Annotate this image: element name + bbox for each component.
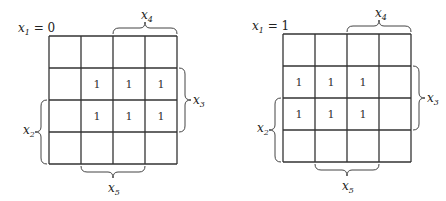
kmap-cell-value: 1 xyxy=(296,108,303,121)
brace-top xyxy=(347,20,411,32)
karnaugh-maps-diagram: x1 = 0111111x4x3x2x5x1 = 1111111x4x3x2x5 xyxy=(0,0,446,201)
label-top: x4 xyxy=(375,6,387,22)
kmap-title: x1 = 1 xyxy=(252,19,289,35)
brace-bottom xyxy=(81,166,145,178)
brace-top xyxy=(113,22,177,34)
kmap-cell-value: 1 xyxy=(328,76,335,89)
brace-left xyxy=(269,98,281,162)
kmap-cell-value: 1 xyxy=(158,110,165,123)
kmap-cell-value: 1 xyxy=(126,110,133,123)
kmap-cell-value: 1 xyxy=(328,108,335,121)
brace-bottom xyxy=(315,164,379,176)
kmap-cell-value: 1 xyxy=(94,110,101,123)
label-top: x4 xyxy=(141,8,153,24)
kmap-cell-value: 1 xyxy=(158,78,165,91)
label-right: x3 xyxy=(193,93,205,109)
kmap-1 xyxy=(283,34,411,162)
kmap-cell-value: 1 xyxy=(126,78,133,91)
label-bottom: x5 xyxy=(108,181,120,197)
kmap-0 xyxy=(49,36,177,164)
label-left: x2 xyxy=(23,123,35,139)
brace-right xyxy=(413,66,425,130)
label-left: x2 xyxy=(257,121,269,137)
kmap-cell-value: 1 xyxy=(360,108,367,121)
kmap-title: x1 = 0 xyxy=(18,21,55,37)
brace-right xyxy=(179,68,191,132)
label-bottom: x5 xyxy=(342,179,354,195)
kmap-cell-value: 1 xyxy=(296,76,303,89)
kmap-cell-value: 1 xyxy=(94,78,101,91)
label-right: x3 xyxy=(427,91,439,107)
brace-left xyxy=(35,100,47,164)
kmap-cell-value: 1 xyxy=(360,76,367,89)
